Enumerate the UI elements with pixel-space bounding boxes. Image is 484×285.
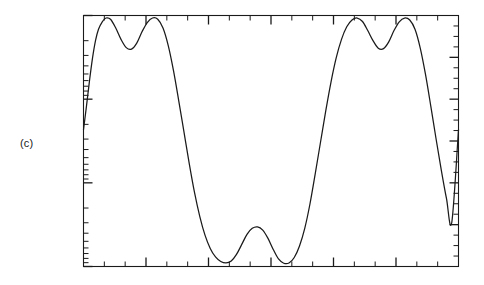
plot-area <box>0 0 484 285</box>
left-axis-ticks <box>84 16 93 267</box>
bottom-axis-ticks <box>104 258 437 267</box>
waveform-curve <box>84 18 459 264</box>
top-axis-ticks <box>104 16 437 25</box>
figure-panel: (c) <box>0 0 484 285</box>
panel-label: (c) <box>20 137 33 149</box>
plot-frame <box>84 16 459 267</box>
